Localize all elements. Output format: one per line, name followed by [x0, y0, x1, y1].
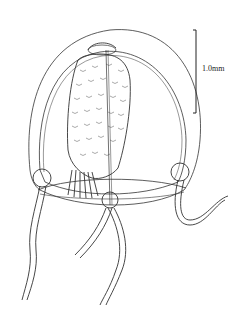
jellyfish-drawing [0, 0, 240, 316]
bell-inner [39, 51, 186, 194]
manubrium [67, 54, 130, 179]
scale-bar [193, 30, 196, 113]
tentacle-bulb-left [33, 169, 51, 187]
ring-canal [38, 179, 186, 190]
radial-canal [106, 50, 110, 205]
scale-bar-label: 1.0mm [202, 64, 224, 73]
